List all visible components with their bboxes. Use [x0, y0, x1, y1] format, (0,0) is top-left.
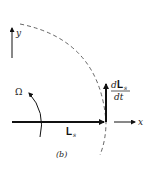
x-axis-label: x	[138, 117, 143, 127]
L-vector-label: L	[66, 126, 72, 137]
dashed-trajectory-arc	[20, 24, 106, 155]
dLdt-numerator-subscript: s	[124, 84, 127, 91]
dLdt-numerator-L: L	[117, 79, 123, 90]
dLdt-denominator: dt	[114, 92, 124, 102]
precession-diagram: y x L s d L s dt Ω (b)	[0, 0, 150, 173]
omega-label: Ω	[15, 87, 22, 97]
omega-rotation-arrow	[29, 93, 42, 137]
L-vector-subscript: s	[73, 131, 76, 138]
y-axis-label: y	[15, 28, 22, 38]
panel-label: (b)	[56, 150, 67, 159]
